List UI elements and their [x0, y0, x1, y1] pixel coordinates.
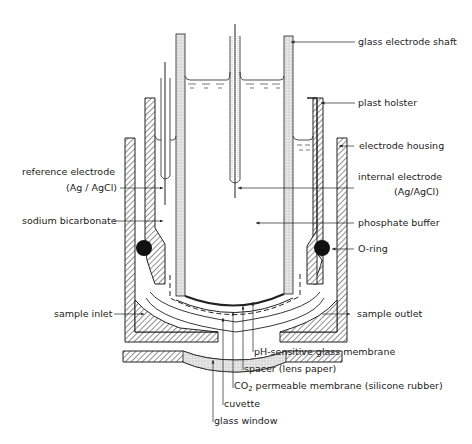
label-sodium-bicarbonate: sodium bicarbonate — [22, 215, 117, 226]
label-plast-holster: plast holster — [358, 97, 417, 108]
membrane-stack — [146, 272, 324, 332]
label-internal-electrode-sub: (Ag/AgCl) — [394, 186, 439, 197]
o-ring-left — [136, 240, 152, 256]
internal-electrode — [230, 24, 240, 198]
plast-holster — [145, 98, 323, 284]
label-glass-window: glass window — [214, 415, 278, 426]
co2-membrane-text: permeable membrane (silicone rubber) — [253, 380, 443, 391]
label-electrode-housing: electrode housing — [359, 140, 444, 151]
co2-prefix: CO — [234, 380, 248, 391]
label-phosphate-buffer: phosphate buffer — [358, 217, 440, 228]
label-reference-electrode: reference electrode — [22, 166, 115, 177]
label-sample-inlet: sample inlet — [54, 308, 113, 319]
label-reference-electrode-sub: (Ag / AgCl) — [66, 182, 117, 193]
label-spacer: spacer (lens paper) — [244, 363, 336, 374]
o-ring-right — [314, 240, 330, 256]
label-cuvette: cuvette — [224, 398, 260, 409]
label-ph-membrane: pH-sensitive glass membrane — [254, 346, 395, 357]
label-internal-electrode: internal electrode — [358, 171, 442, 182]
label-co2-membrane: CO2 permeable membrane (silicone rubber) — [234, 380, 443, 393]
label-glass-electrode-shaft: glass electrode shaft — [358, 36, 457, 47]
co2-electrode-diagram: glass electrode shaft plast holster elec… — [0, 0, 472, 444]
label-o-ring: O-ring — [358, 243, 388, 254]
label-sample-outlet: sample outlet — [357, 308, 423, 319]
